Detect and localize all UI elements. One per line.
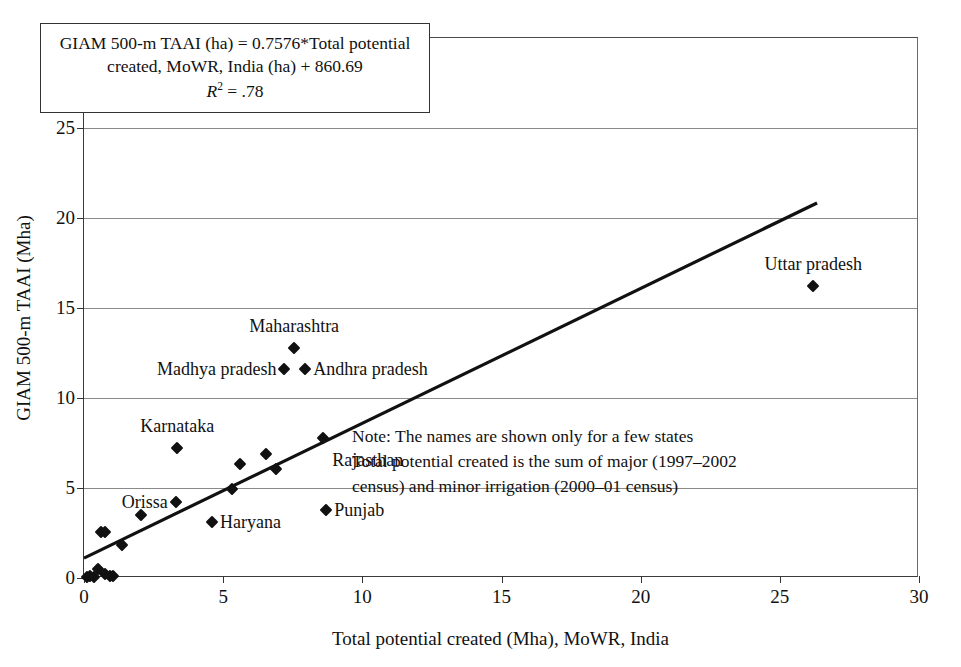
x-tick-mark-20 [641,576,642,583]
x-tick-mark-25 [780,576,781,583]
x-tick-mark-15 [502,576,503,583]
x-tick-label-5: 5 [218,586,228,608]
note-line-2: Total potential created is the sum of ma… [352,449,782,474]
y-tick-mark-25 [77,128,84,129]
y-tick-label-5: 5 [66,477,76,499]
r-squared-number: = .78 [227,81,263,101]
scatter-chart-figure: 051015202530 051015202530 OrissaKarnatak… [0,0,961,667]
y-tick-label-0: 0 [66,567,76,589]
x-tick-label-25: 25 [770,586,789,608]
x-tick-label-30: 30 [910,586,929,608]
point-label-karnataka: Karnataka [140,416,214,437]
chart-note: Note: The names are shown only for a few… [352,424,782,499]
point-label-orissa: Orissa [122,491,168,512]
y-tick-mark-20 [77,218,84,219]
x-tick-label-15: 15 [492,586,511,608]
equation-line-1: GIAM 500-m TAAI (ha) = 0.7576*Total [60,33,345,53]
point-label-punjab: Punjab [334,499,384,520]
note-line-1: Note: The names are shown only for a few… [352,424,782,449]
y-tick-label-25: 25 [56,117,75,139]
note-line-3: census) and minor irrigation (2000–01 ce… [352,474,782,499]
y-axis-title: GIAM 500-m TAAI (Mha) [13,148,35,488]
y-tick-label-20: 20 [56,207,75,229]
r-squared-symbol: R [207,81,218,101]
y-tick-label-10: 10 [56,387,75,409]
r-squared-line: R2 = .78 [51,79,419,103]
x-tick-label-20: 20 [631,586,650,608]
point-label-andhra-pradesh: Andhra pradesh [313,359,427,380]
x-tick-label-10: 10 [353,586,372,608]
y-tick-mark-10 [77,398,84,399]
regression-equation-box: GIAM 500-m TAAI (ha) = 0.7576*Total pote… [40,23,430,113]
y-tick-mark-5 [77,488,84,489]
x-tick-mark-5 [223,576,224,583]
x-tick-mark-10 [362,576,363,583]
x-axis-title: Total potential created (Mha), MoWR, Ind… [83,628,918,650]
point-label-uttar-pradesh: Uttar pradesh [764,254,861,275]
point-label-maharashtra: Maharashtra [249,316,339,337]
x-tick-label-0: 0 [79,586,89,608]
point-label-haryana: Haryana [220,512,281,533]
y-tick-mark-15 [77,308,84,309]
y-tick-label-15: 15 [56,297,75,319]
point-label-madhya-pradesh: Madhya pradesh [157,359,276,380]
x-tick-mark-30 [919,576,920,583]
